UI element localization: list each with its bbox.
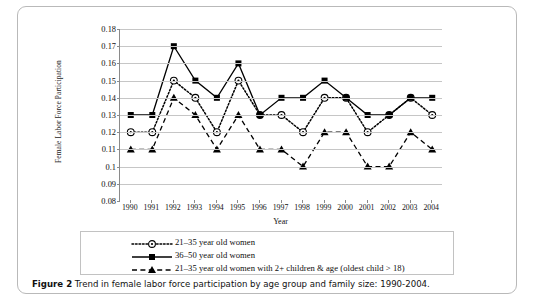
gridline <box>120 63 442 64</box>
y-tick-mark <box>117 81 120 82</box>
series-1 <box>127 77 435 135</box>
plot-area <box>119 29 442 201</box>
square-marker <box>149 254 155 260</box>
x-tick-mark <box>367 200 368 203</box>
y-axis-title: Female Labor Force Participation <box>54 32 63 192</box>
y-axis-tick-label: 0.1 <box>80 162 116 171</box>
x-tick-mark <box>130 200 131 203</box>
x-tick-mark <box>173 200 174 203</box>
figure-caption: Figure 2 Trend in female labor force par… <box>32 279 504 290</box>
gridline <box>120 149 442 150</box>
chart-legend: 21–35 year old women36–50 year old women… <box>80 231 454 275</box>
y-tick-mark <box>117 63 120 64</box>
x-axis-title: Year <box>119 217 442 226</box>
y-axis-tick-label: 0.08 <box>80 197 116 206</box>
legend-item[interactable]: 21–35 year old women with 2+ children & … <box>81 261 453 274</box>
gridline <box>120 132 442 133</box>
y-tick-mark <box>117 167 120 168</box>
x-tick-mark <box>324 200 325 203</box>
x-tick-mark <box>194 200 195 203</box>
y-axis-tick-label: 0.12 <box>80 128 116 137</box>
legend-marker-triangle-icon <box>129 262 175 274</box>
y-axis-tick-labels: 0.180.170.160.150.140.130.120.110.10.090… <box>80 29 116 201</box>
legend-item-label: 21–35 year old women <box>175 237 255 247</box>
legend-item[interactable]: 21–35 year old women <box>81 235 453 248</box>
figure-caption-text: Trend in female labor force participatio… <box>72 279 430 289</box>
figure-caption-label: Figure 2 <box>32 279 72 289</box>
y-tick-mark <box>117 132 120 133</box>
x-tick-mark <box>388 200 389 203</box>
series-line <box>131 81 432 133</box>
x-tick-mark <box>302 200 303 203</box>
legend-item-label: 21–35 year old women with 2+ children & … <box>175 263 405 273</box>
x-tick-mark <box>431 200 432 203</box>
y-tick-mark <box>117 115 120 116</box>
y-tick-mark <box>117 29 120 30</box>
chart-region: Female Labor Force Participation 0.180.1… <box>18 7 516 269</box>
y-tick-mark <box>117 98 120 99</box>
x-tick-mark <box>345 200 346 203</box>
gridline <box>120 115 442 116</box>
gridline <box>120 184 442 185</box>
x-tick-mark <box>151 200 152 203</box>
legend-item-label: 36–50 year old women <box>175 250 255 260</box>
y-axis-tick-label: 0.09 <box>80 179 116 188</box>
x-axis-tick-label: 2004 <box>414 203 448 212</box>
x-axis-tick-labels: 1990199119921993199419951996199719981999… <box>119 203 442 217</box>
gridline <box>120 29 442 30</box>
y-axis-tick-label: 0.15 <box>80 76 116 85</box>
x-tick-mark <box>237 200 238 203</box>
y-tick-mark <box>117 46 120 47</box>
y-axis-tick-label: 0.14 <box>80 93 116 102</box>
x-tick-mark <box>281 200 282 203</box>
y-axis-tick-label: 0.16 <box>80 59 116 68</box>
y-axis-tick-label: 0.13 <box>80 111 116 120</box>
legend-item[interactable]: 36–50 year old women <box>81 248 453 261</box>
y-tick-mark <box>117 201 120 202</box>
y-axis-tick-label: 0.18 <box>80 25 116 34</box>
gridline <box>120 81 442 82</box>
gridline <box>120 46 442 47</box>
legend-marker-square-icon <box>129 249 175 261</box>
y-tick-mark <box>117 184 120 185</box>
gridline <box>120 98 442 99</box>
y-axis-tick-label: 0.11 <box>80 145 116 154</box>
x-tick-mark <box>410 200 411 203</box>
circle-dot-marker <box>149 240 156 247</box>
gridline <box>120 167 442 168</box>
y-axis-tick-label: 0.17 <box>80 42 116 51</box>
legend-marker-circle-dot-icon <box>129 236 175 248</box>
figure-card: Female Labor Force Participation 0.180.1… <box>17 6 517 294</box>
y-tick-mark <box>117 149 120 150</box>
x-tick-mark <box>259 200 260 203</box>
x-tick-mark <box>216 200 217 203</box>
